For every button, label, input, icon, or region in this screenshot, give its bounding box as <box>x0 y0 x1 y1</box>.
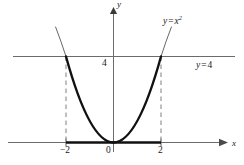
x-tick-label-plus-2: 2 <box>158 146 163 156</box>
origin-label: 0 <box>106 146 111 156</box>
graph-figure: y x 4 −2 0 2 y=x2 y=4 <box>0 0 244 165</box>
curve-equation-equals: = <box>167 16 174 26</box>
x-tick-label-minus-2: −2 <box>60 146 70 156</box>
y-axis-label: y <box>117 0 121 9</box>
reference-line-value: 4 <box>208 60 213 70</box>
parabola-extension-left <box>56 27 66 57</box>
x-axis-arrow-icon <box>219 139 228 146</box>
curve-equation-label: y=x2 <box>163 15 182 27</box>
y-tick-label-4: 4 <box>102 59 107 69</box>
x-axis-label: x <box>232 139 236 148</box>
graph-canvas <box>0 0 244 165</box>
reference-line-equation-label: y=4 <box>196 61 212 71</box>
parabola-extension-right <box>161 27 171 57</box>
reference-line-equals: = <box>200 60 207 70</box>
curve-equation-exponent: 2 <box>179 14 182 21</box>
